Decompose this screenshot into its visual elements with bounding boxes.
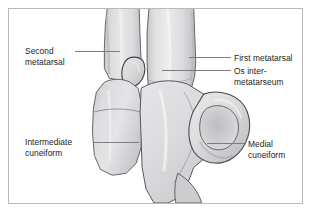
anatomical-figure: Second metatarsal Intermediate cuneiform… bbox=[0, 0, 312, 213]
leader-line-os-intermetatarseum bbox=[162, 70, 231, 71]
foot-bones-illustration bbox=[9, 9, 302, 203]
label-second-metatarsal: Second metatarsal bbox=[25, 46, 65, 67]
label-medial-cuneiform: Medial cuneiform bbox=[248, 139, 285, 160]
leader-line-first-metatarsal bbox=[189, 57, 231, 58]
leader-line-medial-cuneiform bbox=[207, 143, 245, 144]
intermediate-cuneiform bbox=[92, 79, 142, 175]
label-os-intermetatarseum: Os inter- metatarseum bbox=[234, 66, 283, 87]
label-intermediate-cuneiform: Intermediate cuneiform bbox=[25, 137, 72, 158]
label-first-metatarsal: First metatarsal bbox=[234, 53, 293, 64]
leader-line-intermediate-cuneiform bbox=[93, 142, 139, 143]
leader-line-second-metatarsal bbox=[75, 51, 120, 52]
figure-frame: Second metatarsal Intermediate cuneiform… bbox=[8, 8, 303, 204]
second-metatarsal-highlight bbox=[120, 9, 121, 66]
